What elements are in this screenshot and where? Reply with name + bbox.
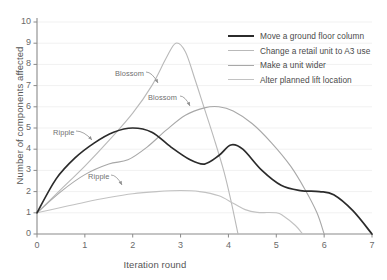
y-tick-label: 2 — [11, 186, 31, 196]
y-tick-label: 1 — [11, 207, 31, 217]
x-tick-label: 6 — [314, 240, 334, 250]
x-tick-label: 7 — [362, 240, 382, 250]
legend-swatch — [228, 50, 254, 51]
chart-container: Number of components affected Iteration … — [0, 0, 387, 280]
legend-label: Change a retail unit to A3 use — [260, 46, 370, 56]
x-tick-label: 4 — [218, 240, 238, 250]
x-axis-title: Iteration round — [0, 259, 310, 270]
legend-swatch — [228, 35, 254, 37]
y-tick-label: 6 — [11, 101, 31, 111]
x-tick-label: 2 — [123, 240, 143, 250]
y-tick-label: 5 — [11, 122, 31, 132]
annotation-label-ripple-upper: Ripple — [53, 128, 75, 137]
legend-label: Move a ground floor column — [260, 31, 364, 41]
legend-item[interactable]: Move a ground floor column — [228, 29, 370, 44]
x-tick-label: 3 — [171, 240, 191, 250]
annotation-arrowhead — [119, 181, 122, 185]
legend-item[interactable]: Change a retail unit to A3 use — [228, 44, 370, 59]
legend-swatch — [228, 79, 254, 80]
y-tick-label: 3 — [11, 164, 31, 174]
legend-label: Alter planned lift location — [260, 75, 352, 85]
y-tick-label: 0 — [11, 228, 31, 238]
y-tick-label: 10 — [11, 16, 31, 26]
annotation-label-ripple-lower: Ripple — [88, 172, 110, 181]
annotation-label-blossom-upper: Blossom — [115, 69, 144, 78]
y-tick-label: 4 — [11, 143, 31, 153]
x-tick-label: 0 — [27, 240, 47, 250]
y-tick-label: 9 — [11, 37, 31, 47]
y-axis-title: Number of components affected — [14, 31, 25, 201]
legend-item[interactable]: Make a unit wider — [228, 58, 370, 73]
legend-item[interactable]: Alter planned lift location — [228, 73, 370, 88]
x-tick-label: 5 — [266, 240, 286, 250]
annotation-label-blossom-lower: Blossom — [148, 93, 177, 102]
legend-label: Make a unit wider — [260, 60, 326, 70]
x-tick-label: 1 — [75, 240, 95, 250]
series-line — [37, 128, 372, 234]
legend-swatch — [228, 65, 254, 66]
y-tick-label: 8 — [11, 58, 31, 68]
chart-legend: Move a ground floor columnChange a retai… — [228, 29, 370, 87]
y-tick-label: 7 — [11, 80, 31, 90]
series-line — [37, 191, 303, 234]
